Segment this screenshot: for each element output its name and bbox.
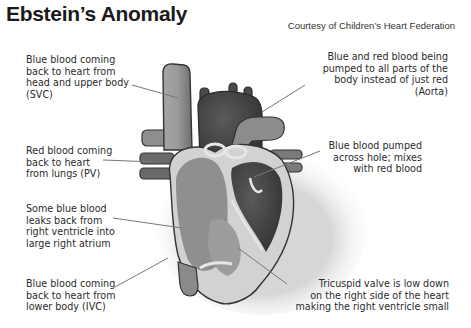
label-aorta: Blue and red blood being pumped to all p… xyxy=(323,51,448,97)
label-leak: Some blue blood leaks back from right ve… xyxy=(26,203,115,249)
inferior-vena-cava xyxy=(178,262,198,296)
label-tricuspid: Tricuspid valve is low down on the right… xyxy=(295,278,449,313)
label-pulmonary-veins: Red blood coming back to heart from lung… xyxy=(26,145,112,180)
label-ivc: Blue blood coming back to heart from low… xyxy=(26,278,115,313)
superior-vena-cava xyxy=(163,64,192,150)
label-hole: Blue blood pumped across hole; mixes wit… xyxy=(328,140,422,175)
label-svc: Blue blood coming back to heart from hea… xyxy=(26,54,129,100)
